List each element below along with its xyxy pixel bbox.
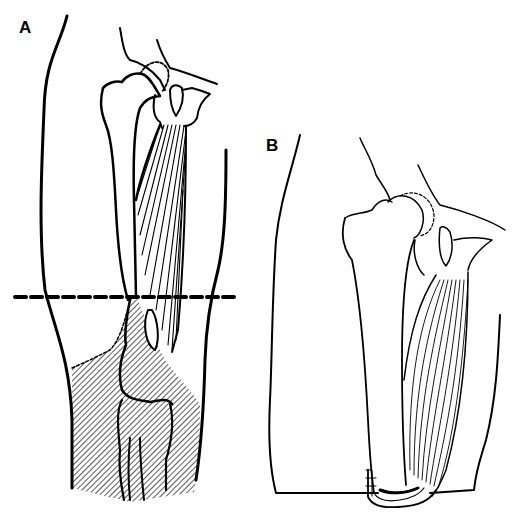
anatomical-figure: A B (0, 0, 518, 526)
panel-b-drawing (269, 135, 505, 507)
illustration (0, 0, 518, 526)
panel-a-drawing (15, 16, 236, 502)
